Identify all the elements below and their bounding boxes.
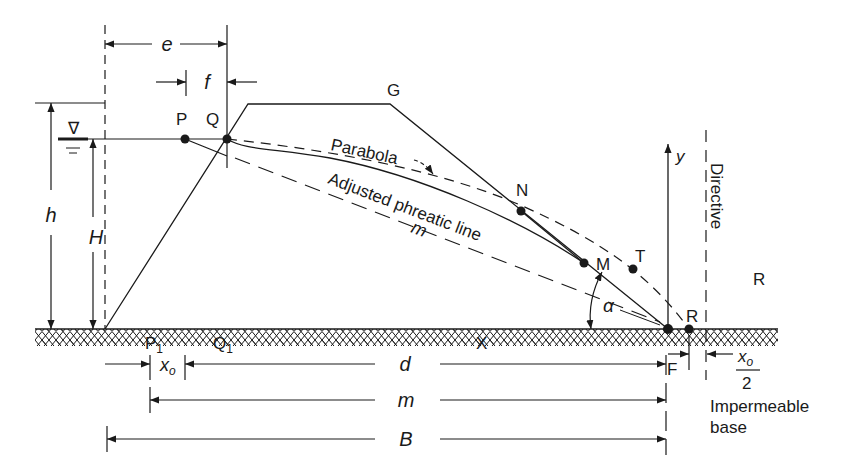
dimension-f: f	[156, 70, 257, 96]
svg-text:2: 2	[742, 374, 751, 393]
water-level-icon: ∇	[67, 119, 80, 138]
earth-dam-seepage-diagram: ∇ h H e f Parabola Adjusted phreatic lin…	[0, 0, 862, 473]
label-parabola: Parabola	[329, 135, 400, 168]
label-alpha: α	[603, 295, 615, 316]
dimension-e: e	[105, 33, 227, 55]
svg-text:e: e	[161, 33, 172, 55]
label-M: M	[596, 255, 610, 274]
label-y-axis: y	[675, 147, 686, 166]
label-impermeable-base: Impermeablebase	[710, 397, 809, 437]
dimension-m: m	[150, 387, 666, 413]
alpha-angle-arc	[590, 272, 602, 329]
dimension-h: h	[45, 103, 56, 329]
label-G: G	[387, 81, 400, 100]
svg-text:F: F	[667, 360, 677, 379]
svg-text:xo: xo	[737, 347, 754, 369]
reservoir: ∇	[35, 103, 227, 153]
m-dashed-line	[235, 158, 660, 322]
label-R-focus: R	[686, 307, 698, 326]
dimension-B: B	[107, 426, 666, 452]
svg-text:m: m	[398, 389, 415, 411]
label-T: T	[635, 247, 645, 266]
parabola-pointer-arrow	[414, 160, 433, 174]
svg-text:h: h	[45, 204, 56, 226]
label-P: P	[176, 110, 187, 129]
label-X: X	[476, 334, 487, 353]
seepage-face-nm	[521, 211, 584, 263]
label-N: N	[516, 181, 528, 200]
dimension-x0-d: xo d	[105, 353, 666, 380]
svg-text:xo: xo	[159, 355, 176, 378]
points	[181, 135, 694, 335]
svg-text:H: H	[89, 226, 104, 248]
dimension-H: H	[89, 139, 104, 329]
svg-text:d: d	[399, 353, 411, 375]
label-R-region: R	[753, 270, 765, 289]
label-directive: Directive	[707, 163, 726, 229]
label-Q: Q	[206, 110, 219, 129]
svg-text:B: B	[399, 428, 412, 450]
label-adjusted-phreatic-line: Adjusted phreatic line	[326, 169, 485, 245]
label-m-line: m	[409, 217, 430, 241]
svg-text:f: f	[204, 71, 212, 93]
